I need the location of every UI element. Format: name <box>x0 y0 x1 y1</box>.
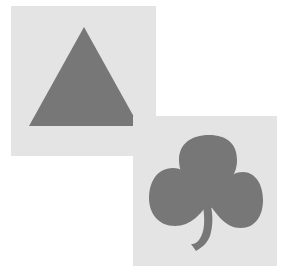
shamrock-card <box>133 116 277 266</box>
shamrock-icon <box>133 116 277 266</box>
shamrock-center <box>197 184 221 208</box>
triangle-shape <box>29 27 139 126</box>
image-canvas <box>0 0 288 280</box>
